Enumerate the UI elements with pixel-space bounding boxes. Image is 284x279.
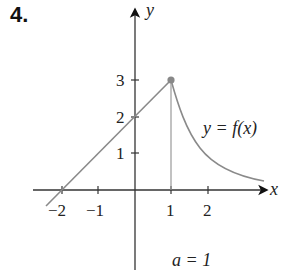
a-value-label: a = 1	[172, 250, 211, 270]
y-tick-label: 2	[116, 108, 125, 127]
x-tick-label: 1	[166, 201, 175, 220]
x-axis-label: x	[269, 179, 278, 199]
filled-point	[167, 76, 174, 83]
curve-label: y = f(x)	[201, 118, 257, 139]
x-tick-label: −1	[86, 201, 104, 220]
x-tick-label: −2	[48, 201, 66, 220]
x-tick-label: 2	[203, 201, 212, 220]
y-tick-label: 1	[116, 144, 125, 163]
linear-segment	[46, 80, 171, 206]
y-axis-label: y	[144, 0, 154, 20]
function-graph: −2 −1 1 2 1 2 3 x y y = f(x) a = 1	[0, 0, 284, 279]
y-tick-label: 3	[116, 71, 125, 90]
